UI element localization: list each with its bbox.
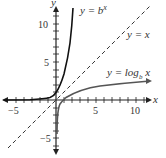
graph: −5 5 10 10 5 −5 x y y = bx y = x y = log… <box>0 0 166 158</box>
identity-label: y = x <box>126 28 150 40</box>
y-axis <box>53 6 59 155</box>
tick-y-neg5: −5 <box>40 133 51 144</box>
tick-x-neg5: −5 <box>8 105 19 116</box>
logarithm-label: y = logb x <box>106 66 150 81</box>
tick-x-10: 10 <box>130 105 140 116</box>
tick-y-5: 5 <box>44 57 49 68</box>
x-axis-label: x <box>152 93 158 105</box>
tick-x-5: 5 <box>93 105 98 116</box>
y-axis-label: y <box>50 0 56 8</box>
exponential-label: y = bx <box>79 3 107 16</box>
tick-y-10: 10 <box>38 19 48 30</box>
